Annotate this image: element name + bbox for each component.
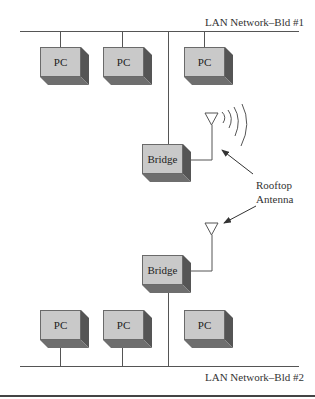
pc-label: PC — [40, 47, 81, 77]
pc-label: PC — [103, 47, 144, 77]
network-diagram: LAN Network–Bld #1 PC PC PC Bridge — [0, 0, 315, 399]
pc-bld1-2: PC — [103, 47, 144, 77]
pc-bld1-3: PC — [184, 47, 225, 77]
pc-bld1-1: PC — [40, 47, 81, 77]
pc-label: PC — [184, 47, 225, 77]
bridge-bld2: Bridge — [142, 255, 183, 285]
callout-arrow-upper — [222, 150, 253, 174]
rooftop-antenna-callout: Rooftop Antenna — [256, 178, 293, 206]
bridge-bld1: Bridge — [142, 144, 183, 174]
pc-bld2-3: PC — [184, 310, 225, 340]
pc-bld2-1: PC — [40, 310, 81, 340]
callout-line2: Antenna — [256, 192, 293, 206]
bridge-label: Bridge — [142, 144, 183, 174]
bottom-rule — [0, 395, 315, 397]
pc-label: PC — [103, 310, 144, 340]
bridge-label: Bridge — [142, 255, 183, 285]
pc-label: PC — [40, 310, 81, 340]
pc-label: PC — [184, 310, 225, 340]
callout-line1: Rooftop — [256, 178, 293, 192]
radio-waves-icon — [222, 104, 247, 146]
pc-bld2-2: PC — [103, 310, 144, 340]
callout-arrow-lower — [224, 206, 256, 223]
